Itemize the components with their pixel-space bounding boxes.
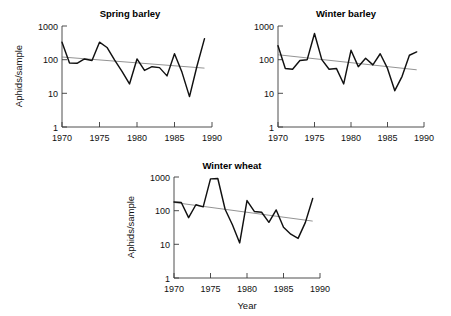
x-tick-label-1980: 1980 xyxy=(127,133,147,143)
y-tick-label-100: 100 xyxy=(43,55,58,65)
x-tick-label-1970: 1970 xyxy=(164,284,184,294)
y-tick-label-10: 10 xyxy=(264,89,274,99)
x-tick-label-1985: 1985 xyxy=(377,133,397,143)
x-tick-label-1985: 1985 xyxy=(273,284,293,294)
panel-title-winter-barley: Winter barley xyxy=(316,8,377,19)
y-ticks-winter-barley: 1000 100 10 1 xyxy=(254,22,283,133)
winter-barley-svg: Winter barley 1000 100 10 1 xyxy=(228,0,451,158)
x-tick-label-1975: 1975 xyxy=(200,284,220,294)
y-tick-label-1000: 1000 xyxy=(254,22,274,32)
y-tick-label-10: 10 xyxy=(160,240,170,250)
spring-barley-svg: Spring barley 1000 100 10 1 xyxy=(0,0,228,158)
y-tick-label-1000: 1000 xyxy=(38,22,58,32)
x-ticks-winter-barley: 1970 1975 1980 1985 1990 xyxy=(268,122,434,143)
x-tick-label-1990: 1990 xyxy=(414,133,434,143)
y-tick-label-1: 1 xyxy=(165,274,170,284)
y-tick-label-100: 100 xyxy=(155,206,170,216)
data-line-spring-barley xyxy=(62,39,205,97)
y-ticks-spring-barley: 1000 100 10 1 xyxy=(38,22,67,133)
y-tick-label-1000: 1000 xyxy=(150,173,170,183)
x-ticks-winter-wheat: 1970 1975 1980 1985 1990 xyxy=(164,273,330,294)
chart-panel-winter-wheat: Winter wheat 1000 100 10 1 xyxy=(112,155,340,316)
winter-wheat-svg: Winter wheat 1000 100 10 1 xyxy=(112,155,340,316)
y-tick-label-1: 1 xyxy=(269,123,274,133)
x-ticks-spring-barley: 1970 1975 1980 1985 1990 xyxy=(52,122,222,143)
x-tick-label-1985: 1985 xyxy=(164,133,184,143)
panel-title-spring-barley: Spring barley xyxy=(100,8,161,19)
x-tick-label-1970: 1970 xyxy=(268,133,288,143)
trend-line-spring-barley xyxy=(62,57,205,68)
y-axis-label-spring-barley: Aphids/sample xyxy=(13,45,24,107)
x-tick-label-1980: 1980 xyxy=(341,133,361,143)
x-tick-label-1975: 1975 xyxy=(304,133,324,143)
x-tick-label-1990: 1990 xyxy=(310,284,330,294)
axes-spring-barley xyxy=(62,26,212,127)
x-axis-label-winter-wheat: Year xyxy=(237,300,256,311)
chart-panel-winter-barley: Winter barley 1000 100 10 1 xyxy=(228,0,451,158)
panel-title-winter-wheat: Winter wheat xyxy=(202,160,262,171)
y-axis-label-winter-wheat: Aphids/sample xyxy=(125,196,136,258)
y-tick-label-1: 1 xyxy=(53,123,58,133)
y-tick-label-10: 10 xyxy=(48,89,58,99)
x-tick-label-1975: 1975 xyxy=(89,133,109,143)
x-tick-label-1990: 1990 xyxy=(202,133,222,143)
axes-winter-wheat xyxy=(174,177,320,278)
data-line-winter-wheat xyxy=(174,179,313,243)
y-ticks-winter-wheat: 1000 100 10 1 xyxy=(150,173,179,284)
x-tick-label-1980: 1980 xyxy=(237,284,257,294)
y-tick-label-100: 100 xyxy=(259,55,274,65)
figure-aphid-trends: Spring barley 1000 100 10 1 xyxy=(0,0,451,316)
chart-panel-spring-barley: Spring barley 1000 100 10 1 xyxy=(0,0,228,158)
x-tick-label-1970: 1970 xyxy=(52,133,72,143)
